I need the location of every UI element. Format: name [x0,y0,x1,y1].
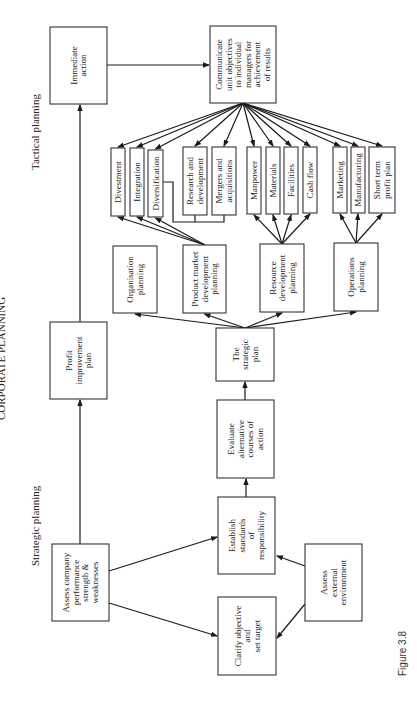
box-text-line: Evaluate [226,423,236,454]
arrow-communicate-to-divestment [118,103,243,147]
box-text-line: Product market [190,251,200,307]
box-text-line: external [329,568,339,597]
box-strategic-plan: Thestrategicplan [216,328,274,381]
box-communicate: Communicateunit objectivesto individualm… [210,26,276,103]
box-text-line: Communicate [214,39,224,90]
box-text-line: of [246,532,256,540]
box-text-line: improvement [74,336,84,384]
arrow-communicate-to-facilities [243,103,291,146]
arrow-assess-to-establish [109,537,217,571]
box-text-line: Integration [132,162,142,202]
box-text-line: action [78,54,88,76]
box-resource: Resourcedevelopmentplanning [260,244,304,312]
box-integration: Integration [130,148,144,216]
box-text-line: alternative [236,420,246,458]
figure-caption: Figure 3.8 [397,631,408,676]
box-text-line: Research and [185,156,195,205]
box-text-line: development [195,157,205,204]
arrow-assess-to-clarify [109,603,217,636]
box-text-line: Manufacturing [353,153,363,207]
box-text-line: of results [262,47,272,81]
box-text-line: planning [356,261,366,293]
arrow-external-to-establish [277,556,305,566]
box-text-line: Resource [268,261,278,295]
box-marketing: Marketing [333,147,347,213]
page-header: CORPORATE PLANNING [0,297,7,420]
box-text-line: courses of [245,421,255,458]
box-text-line: responsibility [256,511,266,560]
box-text-line: and [242,629,252,642]
box-text-line: Assess [319,570,329,595]
box-text-line: Operations [346,257,356,297]
box-materials: Materials [266,147,280,214]
box-text-line: Assess company [61,552,71,612]
box-text-line: managers for [243,41,253,88]
box-text-line: Immediate [69,46,79,84]
box-text-line: plan [83,352,93,368]
box-text-line: standards [237,518,247,552]
box-text-line: Organisation [125,256,135,303]
box-product-market: Product marketdevelopmentplanning [183,245,226,313]
box-text-line: planning [287,262,297,294]
box-text-line: Divestment [113,161,123,203]
box-assess-company: Assess companyperformancestrength &weakn… [52,544,109,621]
box-text-line: Short term [372,161,382,199]
box-assess-external: Assessexternalenvironment [305,544,362,621]
arrow-external-to-clarify [277,604,305,638]
box-facilities: Facilities [284,147,298,214]
arrow-strategic-to-operations [245,312,356,328]
box-text-line: Diversification [151,156,161,210]
box-diversification: Diversification [148,150,163,217]
strategic-planning-label: Strategic planning [29,485,41,566]
tactical-planning-label: Tactical planning [29,94,41,170]
box-clarify: Clarify objectiveandset target [218,597,276,675]
box-text-line: development [277,254,287,301]
box-text-line: to individual [233,41,243,87]
box-text-line: planning [209,263,219,295]
box-text-line: Manpower [249,161,259,200]
arrow-strategic-to-organisation [135,314,245,328]
box-text-line: plan [250,346,260,362]
box-text-line: planning [135,263,145,295]
box-divestment: Divestment [111,148,125,216]
box-text-line: Materials [268,163,278,197]
box-short-term: Short termprofit plan [369,147,395,213]
box-profit-improvement: Profitimprovementplan [50,322,107,399]
box-text-line: environment [338,559,348,605]
corporate-planning-diagram: ImmediateactionCommunicateunit objective… [0,0,417,701]
box-text-line: Clarify objective [233,606,243,667]
box-text-line: performance [71,560,81,605]
box-establish: Establishstandardsofresponsibility [218,497,275,574]
arrow-communicate-to-short-term [243,103,382,146]
box-text-line: Facilities [286,164,296,197]
box-text-line: profit plan [382,161,392,199]
box-manufacturing: Manufacturing [351,147,365,213]
arrow-operations-to-short-term [356,214,382,243]
box-text-line: set target [252,619,262,652]
box-text-line: Establish [227,519,237,552]
box-operations: Operationsplanning [334,243,378,311]
box-text-line: strength & [80,563,90,601]
box-manpower: Manpower [247,147,261,214]
box-text-line: unit objectives [224,38,234,91]
arrow-operations-to-marketing [340,214,356,243]
box-text-line: achievement [252,41,262,87]
box-text-line: strategic [240,339,250,370]
box-text-line: acquisitions [224,159,234,202]
box-mergers: Mergers andacquisitions [212,147,236,215]
arrow-operations-to-manufacturing [356,214,358,243]
box-text-line: Marketing [335,161,345,199]
box-organisation: Organisationplanning [113,246,157,313]
box-research: Research anddevelopment [183,147,207,215]
box-text-line: Mergers and [214,158,224,204]
box-text-line: Cash flow [305,161,315,198]
box-text-line: Profit [64,350,74,371]
box-cash-flow: Cash flow [303,147,317,213]
box-text-line: weaknesses [90,561,100,603]
box-text-line: development [200,255,210,302]
box-text-line: The [231,348,241,362]
box-immediate-action: Immediateaction [50,27,107,104]
boxes: ImmediateactionCommunicateunit objective… [50,26,395,675]
box-text-line: action [255,428,265,450]
box-evaluate: Evaluatealternativecourses ofaction [217,400,274,478]
